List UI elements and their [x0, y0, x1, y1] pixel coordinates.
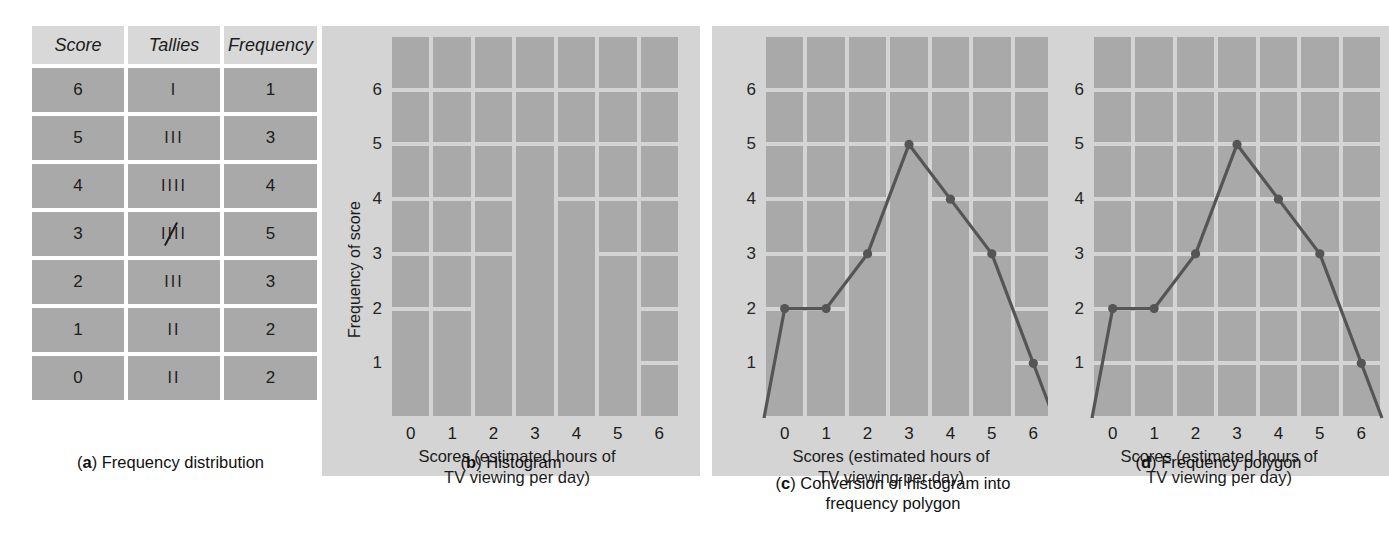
- histogram-bar-segment: [558, 363, 595, 416]
- table-row: 4IIII4: [32, 164, 317, 208]
- panel-c-caption-text: ) Conversion of histogram into frequency…: [790, 474, 1010, 513]
- grid-cell: [641, 311, 678, 362]
- data-point-marker: [1232, 140, 1241, 149]
- x-tick-label: 6: [1349, 424, 1373, 444]
- tally-marks: IIII: [161, 225, 187, 243]
- column-header-score: Score: [32, 26, 124, 64]
- panel-a-caption: (a) Frequency distribution: [32, 452, 309, 473]
- y-tick-label: 2: [732, 299, 756, 319]
- histogram-bar-segment: [392, 311, 429, 364]
- cell-frequency: 3: [224, 260, 317, 304]
- grid-cell: [558, 146, 595, 197]
- column-header-tallies: Tallies: [128, 26, 220, 64]
- y-tick-label: 1: [732, 353, 756, 373]
- panel-d-frequency-polygon: 123456 0123456 Scores (estimated hours o…: [1048, 26, 1389, 476]
- panel-c-conversion: 123456 0123456 Scores (estimated hours o…: [712, 26, 1074, 476]
- x-tick-label: 1: [1142, 424, 1166, 444]
- grid-cell: [475, 37, 512, 88]
- tally-marks: I: [171, 81, 177, 98]
- frequency-polygon-line: [1092, 35, 1382, 418]
- data-point-marker: [1274, 195, 1283, 204]
- tally-slash: [164, 222, 178, 246]
- y-tick-label: 5: [358, 134, 382, 154]
- data-point-marker: [1029, 359, 1038, 368]
- histogram-bar-segment: [475, 256, 512, 309]
- grid-cell: [475, 92, 512, 143]
- tally-marks: III: [164, 129, 183, 146]
- histogram-bar-segment: [475, 309, 512, 364]
- x-tick-label: 3: [897, 424, 921, 444]
- grid-cell: [475, 146, 512, 197]
- panel-d-caption-text: ) Frequency polygon: [1151, 453, 1301, 471]
- x-tick-label: 0: [773, 424, 797, 444]
- data-point-marker: [863, 249, 872, 258]
- y-tick-label: 1: [1060, 353, 1084, 373]
- x-tick-label: 3: [523, 424, 547, 444]
- tally-marks: IIII: [161, 177, 187, 194]
- grid-cell: [641, 256, 678, 307]
- x-tick-label: 5: [980, 424, 1004, 444]
- y-tick-label: 5: [1060, 134, 1084, 154]
- grid-cell: [392, 92, 429, 143]
- panel-a-caption-text: ) Frequency distribution: [92, 453, 264, 471]
- cell-frequency: 2: [224, 308, 317, 352]
- histogram-bar-segment: [599, 363, 636, 416]
- panel-c-caption-letter: c: [781, 474, 790, 492]
- y-tick-label: 3: [358, 244, 382, 264]
- panel-b-plot-area: [390, 35, 680, 418]
- y-tick-label: 4: [732, 189, 756, 209]
- histogram-bar-segment: [641, 365, 678, 416]
- x-tick-label: 6: [647, 424, 671, 444]
- cell-tallies: III: [128, 260, 220, 304]
- histogram-bar-segment: [475, 363, 512, 416]
- histogram-bar-segment: [516, 363, 553, 416]
- grid-cell: [641, 201, 678, 252]
- x-tick-label: 2: [482, 424, 506, 444]
- cell-frequency: 1: [224, 68, 317, 112]
- grid-cell: [558, 92, 595, 143]
- grid-cell: [641, 146, 678, 197]
- grid-cell: [433, 92, 470, 143]
- histogram-bar-segment: [392, 363, 429, 416]
- data-point-marker: [1315, 249, 1324, 258]
- data-point-marker: [780, 304, 789, 313]
- cell-score: 4: [32, 164, 124, 208]
- x-tick-label: 5: [606, 424, 630, 444]
- y-tick-label: 6: [1060, 80, 1084, 100]
- grid-cell: [516, 92, 553, 143]
- x-tick-label: 1: [440, 424, 464, 444]
- panel-a-caption-letter: a: [82, 453, 91, 471]
- cell-tallies: I: [128, 68, 220, 112]
- x-tick-label: 4: [564, 424, 588, 444]
- histogram-bar-segment: [516, 254, 553, 309]
- histogram-bar-segment: [558, 309, 595, 364]
- y-tick-label: 4: [1060, 189, 1084, 209]
- histogram-bar-segment: [516, 199, 553, 254]
- y-tick-label: 3: [732, 244, 756, 264]
- grid-cell: [599, 37, 636, 88]
- x-tick-label: 4: [938, 424, 962, 444]
- panel-b-caption-letter: b: [466, 453, 476, 471]
- cell-score: 1: [32, 308, 124, 352]
- panel-d-caption: (d) Frequency polygon: [1048, 452, 1389, 473]
- panel-b-histogram: Frequency of score 123456 0123456 Scores…: [322, 26, 700, 476]
- cell-score: 0: [32, 356, 124, 400]
- y-tick-label: 5: [732, 134, 756, 154]
- grid-cell: [392, 256, 429, 307]
- table-row: 1II2: [32, 308, 317, 352]
- panel-c-plot-area: [764, 35, 1054, 418]
- tally-marks: II: [168, 321, 181, 338]
- panel-b-caption-text: ) Histogram: [476, 453, 561, 471]
- grid-cell: [599, 92, 636, 143]
- grid-cell: [433, 146, 470, 197]
- data-point-marker: [946, 195, 955, 204]
- table-row: 5III3: [32, 116, 317, 160]
- grid-cell: [392, 37, 429, 88]
- cell-frequency: 4: [224, 164, 317, 208]
- x-tick-label: 0: [399, 424, 423, 444]
- column-header-frequency: Frequency: [224, 26, 317, 64]
- frequency-distribution-table: Score Tallies Frequency 6I15III34IIII43I…: [28, 22, 321, 404]
- data-point-marker: [1108, 304, 1117, 313]
- x-tick-label: 4: [1266, 424, 1290, 444]
- data-point-marker: [822, 304, 831, 313]
